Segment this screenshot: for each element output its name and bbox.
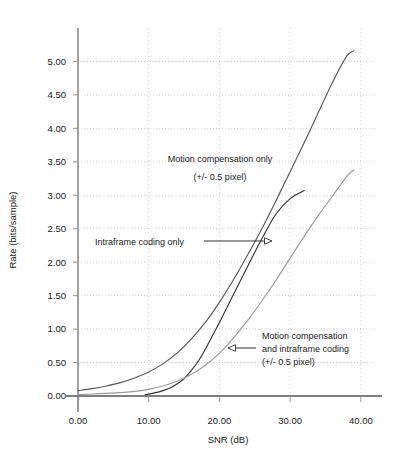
y-tick-label: 1.00: [48, 323, 67, 334]
y-tick-label: 0.50: [48, 357, 67, 368]
y-tick-label: 2.00: [48, 257, 67, 268]
y-tick-label: 1.50: [48, 290, 67, 301]
annotation-line: (+/- 0.5 pixel): [262, 357, 315, 367]
y-tick-label: 4.50: [48, 89, 67, 100]
annotation-motion-compensation-and-intraframe: Motion compensation and intraframe codin…: [228, 331, 349, 367]
horizontal-gridlines: [78, 61, 375, 362]
annotation-line: Intraframe coding only: [95, 237, 185, 247]
x-tick-marks: [78, 396, 361, 412]
x-axis-title: SNR (dB): [208, 434, 249, 445]
annotation-motion-compensation-only: Motion compensation only (+/- 0.5 pixel): [168, 154, 273, 182]
axes: [66, 28, 382, 412]
y-tick-label: 4.00: [48, 123, 67, 134]
annotation-intraframe-coding-only: Intraframe coding only: [95, 237, 272, 247]
x-tick-label: 40.00: [349, 415, 373, 426]
rate-vs-snr-line-chart: 0.000.501.001.502.002.503.003.504.004.50…: [0, 0, 404, 471]
x-tick-label: 20.00: [208, 415, 232, 426]
y-axis-tick-labels: 0.000.501.001.502.002.503.003.504.004.50…: [48, 56, 67, 402]
y-tick-label: 0.00: [48, 390, 67, 401]
x-tick-label: 10.00: [137, 415, 161, 426]
annotation-line: and intraframe coding: [262, 344, 349, 354]
y-tick-label: 5.00: [48, 56, 67, 67]
y-tick-label: 3.50: [48, 156, 67, 167]
x-tick-label: 30.00: [278, 415, 302, 426]
annotation-line: (+/- 0.5 pixel): [194, 172, 247, 182]
y-tick-label: 3.00: [48, 190, 67, 201]
x-axis-tick-labels: 0.0010.0020.0030.0040.00: [69, 415, 373, 426]
annotation-line: Motion compensation: [262, 331, 348, 341]
x-tick-label: 0.00: [69, 415, 88, 426]
chart-figure: 0.000.501.001.502.002.503.003.504.004.50…: [0, 0, 404, 471]
y-tick-label: 2.50: [48, 223, 67, 234]
annotation-line: Motion compensation only: [168, 154, 273, 164]
y-axis-title: Rate (bits/sample): [7, 191, 18, 268]
